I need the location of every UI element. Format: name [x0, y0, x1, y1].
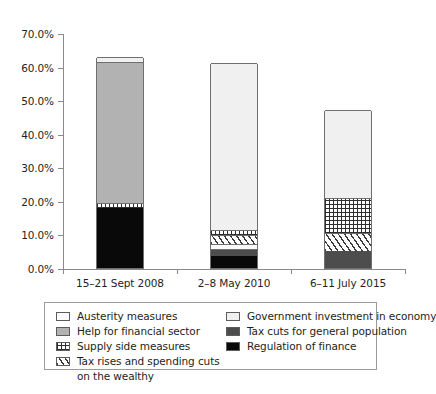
y-axis-tick-label: 0.0%: [28, 263, 54, 275]
y-axis-tick: [58, 101, 63, 102]
segment-divider: [325, 233, 371, 234]
segment-divider: [211, 249, 257, 250]
x-axis-category-label: 6–11 July 2015: [310, 277, 386, 289]
bar-segment-supply[interactable]: [211, 230, 257, 235]
legend-item-austerity[interactable]: Austerity measures: [56, 310, 220, 323]
legend-item-label: Government investment in economy: [247, 310, 436, 323]
segment-divider: [211, 63, 257, 64]
x-axis-tick: [405, 269, 406, 274]
y-axis-tick-label: 20.0%: [21, 196, 54, 208]
segment-divider: [211, 230, 257, 231]
legend-item-taxrise[interactable]: Tax rises and spending cuts: [56, 355, 220, 368]
legend-item-label: Help for financial sector: [77, 325, 200, 338]
y-axis-tick-label: 10.0%: [21, 229, 54, 241]
legend-swatch-govinvest-icon: [226, 312, 240, 321]
y-axis-tick-label: 60.0%: [21, 62, 54, 74]
x-axis-tick: [291, 269, 292, 274]
legend-column-right: Government investment in economyTax cuts…: [226, 310, 436, 355]
y-axis-tick-label: 70.0%: [21, 28, 54, 40]
segment-divider: [211, 235, 257, 236]
bar-segment-supply[interactable]: [325, 198, 371, 234]
legend-column-left: Austerity measuresHelp for financial sec…: [56, 310, 220, 383]
bar-segment-govinvest[interactable]: [325, 110, 371, 197]
bar-segment-regfin[interactable]: [97, 208, 143, 268]
x-axis-category-label: 2–8 May 2010: [198, 277, 271, 289]
legend-item-taxcuts[interactable]: Tax cuts for general population: [226, 325, 436, 338]
legend-swatch-taxrise-icon: [56, 357, 70, 366]
legend-swatch-austerity-icon: [56, 312, 70, 321]
legend-swatch-helpfin-icon: [56, 327, 70, 336]
plot-area: 70.0%60.0%50.0%40.0%30.0%20.0%10.0%0.0%: [63, 34, 405, 269]
segment-divider: [211, 244, 257, 245]
y-axis-tick: [58, 135, 63, 136]
bar-1[interactable]: [96, 58, 144, 270]
bar-segment-govinvest[interactable]: [211, 63, 257, 230]
legend-item-label: Supply side measures: [77, 340, 190, 353]
bar-segment-govinvest[interactable]: [97, 57, 143, 62]
x-axis-tick: [177, 269, 178, 274]
bar-segment-taxcuts[interactable]: [325, 251, 371, 268]
y-axis-tick-label: 40.0%: [21, 129, 54, 141]
y-axis-tick-label: 30.0%: [21, 162, 54, 174]
legend-swatch-regfin-icon: [226, 342, 240, 351]
legend-item-label: Regulation of finance: [247, 340, 356, 353]
segment-divider: [97, 203, 143, 204]
x-axis-line: [63, 269, 405, 270]
y-axis-tick-label: 50.0%: [21, 95, 54, 107]
legend-item-label: Tax cuts for general population: [247, 325, 407, 338]
y-axis-tick: [58, 68, 63, 69]
bar-segment-taxrise[interactable]: [211, 235, 257, 244]
chart-legend: Austerity measuresHelp for financial sec…: [44, 302, 377, 370]
bar-segment-supply[interactable]: [97, 203, 143, 208]
segment-divider: [325, 198, 371, 199]
bar-segment-taxcuts[interactable]: [211, 249, 257, 256]
legend-item-label: Austerity measures: [77, 310, 177, 323]
bar-segment-helpfin[interactable]: [97, 62, 143, 203]
bar-3[interactable]: [324, 111, 372, 269]
bar-segment-austerity[interactable]: [211, 244, 257, 249]
legend-swatch-supply-icon: [56, 342, 70, 351]
legend-item-label-continued: on the wealthy: [77, 370, 220, 383]
x-axis-category-label: 15–21 Sept 2008: [76, 277, 164, 289]
legend-item-label: Tax rises and spending cuts: [77, 355, 220, 368]
legend-item-regfin[interactable]: Regulation of finance: [226, 340, 436, 353]
x-axis-tick: [63, 269, 64, 274]
segment-divider: [325, 110, 371, 111]
y-axis-tick: [58, 235, 63, 236]
legend-item-govinvest[interactable]: Government investment in economy: [226, 310, 436, 323]
legend-item-supply[interactable]: Supply side measures: [56, 340, 220, 353]
bar-segment-regfin[interactable]: [211, 256, 257, 268]
bar-segment-taxrise[interactable]: [325, 233, 371, 251]
legend-swatch-taxcuts-icon: [226, 327, 240, 336]
y-axis-tick: [58, 202, 63, 203]
bar-2[interactable]: [210, 64, 258, 269]
y-axis-tick: [58, 168, 63, 169]
segment-divider: [97, 62, 143, 63]
legend-item-helpfin[interactable]: Help for financial sector: [56, 325, 220, 338]
segment-divider: [97, 57, 143, 58]
y-axis-tick: [58, 34, 63, 35]
